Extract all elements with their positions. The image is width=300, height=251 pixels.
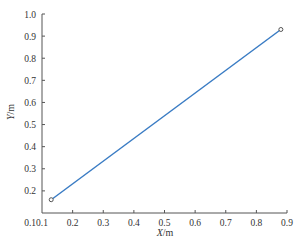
- chart: 0.10.20.30.40.50.60.70.80.9 0.10.20.30.4…: [0, 0, 300, 251]
- y-tick-label: 0.8: [24, 54, 36, 64]
- x-axis-label: X/m: [156, 227, 174, 238]
- y-tick-label: 0.9: [24, 32, 36, 42]
- series-line: [51, 29, 281, 199]
- y-tick-label: 1.0: [24, 10, 36, 20]
- y-tick-label: 0.5: [24, 120, 36, 130]
- x-tick-label: 0.6: [189, 218, 201, 228]
- x-tick-label: 0.4: [128, 218, 140, 228]
- data-series: [49, 27, 283, 201]
- x-tick-label: 0.1: [36, 218, 48, 228]
- y-tick-label: 0.6: [24, 98, 36, 108]
- y-tick-label: 0.7: [24, 76, 36, 86]
- y-tick-label: 0.4: [24, 142, 36, 152]
- data-point-marker: [49, 198, 53, 202]
- x-tick-label: 0.8: [250, 218, 262, 228]
- x-tick-label: 0.3: [97, 218, 109, 228]
- x-tick-label: 0.9: [281, 218, 293, 228]
- axes: [42, 14, 287, 213]
- plot-area: 0.10.20.30.40.50.60.70.80.9 0.10.20.30.4…: [0, 0, 300, 251]
- x-tick-label: 0.7: [220, 218, 232, 228]
- x-tick-label: 0.2: [67, 218, 79, 228]
- y-tick-label: 0.1: [24, 218, 36, 228]
- y-tick-label: 0.2: [24, 186, 36, 196]
- y-tick-label: 0.3: [24, 164, 36, 174]
- y-axis-label: Y/m: [5, 104, 16, 120]
- data-point-marker: [279, 27, 283, 31]
